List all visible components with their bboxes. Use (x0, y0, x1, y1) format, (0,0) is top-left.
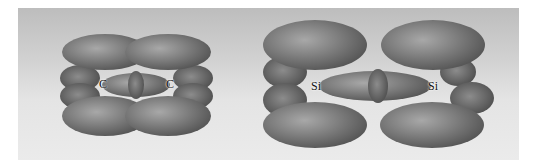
atom-label-si2: Si (428, 79, 438, 94)
orbital-illustration (0, 0, 539, 168)
atom-label-si1: Si (311, 79, 321, 94)
silicon-dimer-orbitals (263, 20, 494, 148)
atom-label-c2: C (166, 77, 174, 92)
carbon-dimer-orbitals (60, 34, 213, 136)
atom-label-c1: C (99, 77, 107, 92)
